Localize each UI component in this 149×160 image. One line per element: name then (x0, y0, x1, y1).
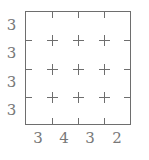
grid-intersection-3-1 (47, 92, 58, 103)
grid-tick-top-3 (104, 12, 105, 18)
grid-intersection-3-3 (99, 92, 110, 103)
grid-tick-bottom-1 (52, 118, 53, 124)
row-clue-2: 3 (0, 75, 23, 90)
grid-intersection-3-2 (73, 92, 84, 103)
grid-tick-right-2 (124, 69, 130, 70)
grid-puzzle: 3 3 3 3 3 4 3 2 (0, 0, 149, 160)
grid-intersection-2-1 (47, 64, 58, 75)
grid-intersection-1-1 (47, 35, 58, 46)
grid-intersection-2-2 (73, 64, 84, 75)
grid-tick-left-1 (26, 40, 32, 41)
puzzle-grid[interactable] (25, 11, 131, 125)
grid-tick-left-2 (26, 69, 32, 70)
grid-intersection-1-3 (99, 35, 110, 46)
column-clue-0: 3 (28, 131, 48, 146)
grid-tick-bottom-2 (78, 118, 79, 124)
column-clue-3: 2 (107, 131, 127, 146)
grid-tick-right-3 (124, 97, 130, 98)
grid-intersection-2-3 (99, 64, 110, 75)
row-clue-3: 3 (0, 103, 23, 118)
grid-tick-top-2 (78, 12, 79, 18)
grid-tick-top-1 (52, 12, 53, 18)
row-clue-1: 3 (0, 46, 23, 61)
grid-tick-left-3 (26, 97, 32, 98)
grid-tick-bottom-3 (104, 118, 105, 124)
grid-intersection-1-2 (73, 35, 84, 46)
column-clue-2: 3 (80, 131, 100, 146)
row-clue-0: 3 (0, 18, 23, 33)
grid-tick-right-1 (124, 40, 130, 41)
column-clue-1: 4 (54, 131, 74, 146)
